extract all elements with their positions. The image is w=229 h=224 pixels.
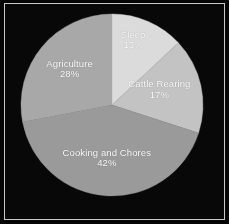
pie-svg <box>5 4 224 219</box>
plot-area: Sleep 13% Cattle Rearing 17% Cooking and… <box>5 4 224 219</box>
pie-slice <box>21 14 112 122</box>
pie-slices <box>21 14 203 196</box>
pie-chart-figure: Sleep 13% Cattle Rearing 17% Cooking and… <box>0 0 229 224</box>
